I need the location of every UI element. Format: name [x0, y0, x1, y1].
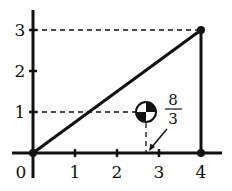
x-label-0: 0: [16, 162, 27, 182]
arrow-icon: [149, 129, 167, 151]
x-label-4: 4: [196, 162, 207, 182]
y-label-1: 1: [15, 102, 26, 122]
triangle-diagram: 8 3 0 1 2 3 4 1 2 3: [0, 0, 232, 191]
vertex-4-3: [197, 26, 205, 34]
x-label-1: 1: [70, 162, 81, 182]
vertex-origin: [29, 149, 37, 157]
center-of-mass-icon: [136, 102, 156, 122]
x-label-2: 2: [112, 162, 123, 182]
vertex-4-0: [197, 149, 205, 157]
x-label-3: 3: [154, 162, 165, 182]
y-label-3: 3: [15, 20, 26, 40]
fraction-numerator: 8: [168, 91, 178, 109]
fraction-denominator: 3: [168, 110, 178, 128]
y-label-2: 2: [15, 61, 26, 81]
